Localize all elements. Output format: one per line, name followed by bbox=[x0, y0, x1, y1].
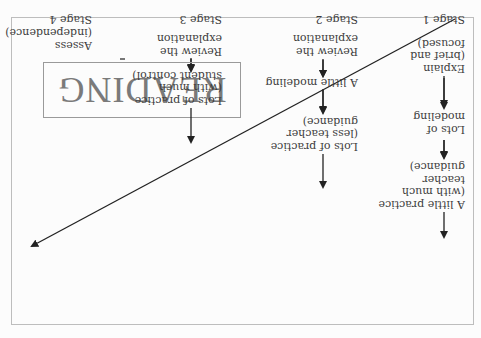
rotated-diagram-page: READING Stage 1 Explain (brief and focus… bbox=[0, 0, 481, 338]
upper-arrows bbox=[0, 0, 481, 338]
